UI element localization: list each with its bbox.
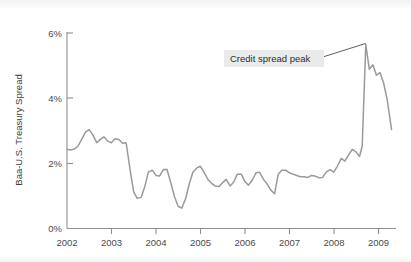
y-tick-label-2: 2%: [48, 158, 62, 169]
y-tick-marks: [67, 33, 73, 164]
x-tick-label-2002: 2002: [56, 237, 77, 248]
x-tick-label-2006: 2006: [234, 237, 255, 248]
x-tick-marks: [112, 229, 379, 235]
x-tick-label-2005: 2005: [190, 237, 211, 248]
x-tick-label-2004: 2004: [145, 237, 166, 248]
y-tick-label-4: 4%: [48, 93, 62, 104]
chart-figure: 6% 4% 2% 0% Baa-U.S. Treasury Spread 200…: [0, 0, 411, 262]
y-axis-title: Baa-U.S. Treasury Spread: [13, 74, 24, 185]
annotation-leader-line: [318, 43, 366, 58]
x-tick-label-2007: 2007: [279, 237, 300, 248]
y-tick-label-6: 6%: [48, 28, 62, 39]
annotation-label: Credit spread peak: [230, 53, 311, 64]
line-chart-svg: 6% 4% 2% 0% Baa-U.S. Treasury Spread 200…: [0, 0, 411, 262]
x-tick-label-2009: 2009: [368, 237, 389, 248]
y-tick-label-0: 0%: [48, 223, 62, 234]
data-series-line: [67, 44, 392, 208]
x-tick-label-2008: 2008: [323, 237, 344, 248]
x-tick-label-2003: 2003: [101, 237, 122, 248]
